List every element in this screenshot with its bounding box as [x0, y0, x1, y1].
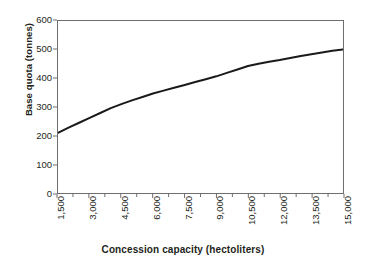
x-tick-label: 12,000: [275, 196, 286, 225]
x-tick-label: 9,000: [211, 196, 222, 220]
x-tick-label: 13,500: [307, 196, 318, 225]
series-line-base-quota: [58, 49, 343, 132]
plot-area: [57, 20, 344, 194]
x-tick-label: 1,500: [52, 196, 63, 220]
y-tick-label: 500: [24, 43, 52, 54]
x-axis-tick-labels: 1,5003,0004,5006,0007,5009,00010,50012,0…: [0, 196, 366, 240]
x-tick-label: 10,500: [243, 196, 254, 225]
data-curve-svg: [58, 21, 343, 193]
y-tick-label: 400: [24, 72, 52, 83]
y-tick-label: 200: [24, 130, 52, 141]
x-axis-title: Concession capacity (hectoliters): [0, 244, 366, 255]
chart-figure: Base quota (tonnes) 0100200300400500600 …: [0, 0, 366, 266]
x-tick-label: 3,000: [84, 196, 95, 220]
x-tick-label: 4,500: [116, 196, 127, 220]
x-tick-label: 15,000: [339, 196, 350, 225]
y-tick-label: 300: [24, 101, 52, 112]
y-tick-label: 100: [24, 159, 52, 170]
x-tick-label: 6,000: [148, 196, 159, 220]
x-tick-label: 7,500: [180, 196, 191, 220]
y-tick-label: 600: [24, 14, 52, 25]
